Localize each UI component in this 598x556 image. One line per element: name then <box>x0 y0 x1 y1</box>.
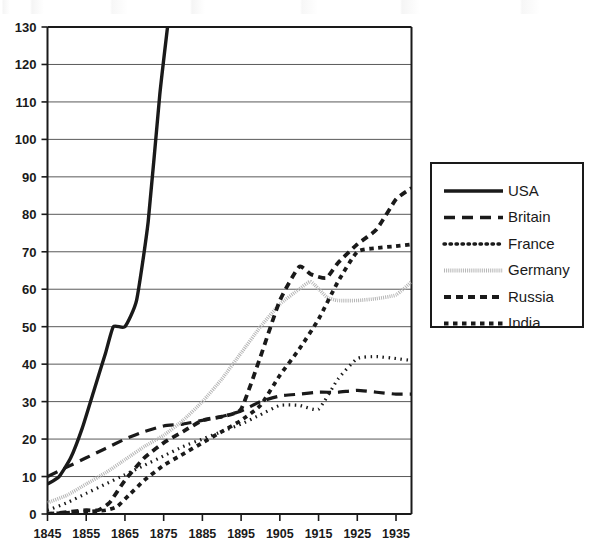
y-axis-label: 20 <box>22 432 36 447</box>
x-axis-label: 1875 <box>150 527 178 541</box>
x-axis-label: 1915 <box>305 527 333 541</box>
y-axis-label: 0 <box>29 507 36 522</box>
legend-label: Russia <box>508 288 555 305</box>
y-axis-label: 80 <box>22 207 36 222</box>
series-line-russia <box>48 188 412 514</box>
series-line-india <box>48 244 412 514</box>
line-chart: 0102030405060708090100110120130 18451855… <box>0 0 598 556</box>
legend-label: Britain <box>508 208 551 225</box>
y-axis-label: 50 <box>22 320 36 335</box>
legend-label: Germany <box>508 261 570 278</box>
x-axis-label: 1845 <box>34 527 62 541</box>
x-tick-marks-group <box>48 514 397 521</box>
chart-page: 0102030405060708090100110120130 18451855… <box>0 0 598 556</box>
legend: USABritainFranceGermanyRussiaIndia <box>431 163 583 331</box>
y-axis-label: 110 <box>16 95 37 110</box>
series-line-germany <box>48 282 412 503</box>
series-line-france <box>48 357 412 511</box>
y-axis-labels-group: 0102030405060708090100110120130 <box>15 20 37 522</box>
legend-label: India <box>508 314 541 331</box>
x-axis-label: 1885 <box>188 527 216 541</box>
series-line-usa <box>48 27 168 484</box>
y-axis-label: 90 <box>22 170 36 185</box>
x-axis-labels-group: 1845185518651875188518951905191519251935 <box>34 527 410 541</box>
data-series-group <box>48 27 412 514</box>
y-axis-label: 30 <box>22 395 36 410</box>
axis-lines-group <box>48 27 412 514</box>
y-axis-label: 130 <box>15 20 37 35</box>
legend-box <box>431 163 583 327</box>
y-axis-label: 100 <box>15 132 37 147</box>
x-axis-label: 1925 <box>343 527 371 541</box>
legend-label: USA <box>508 182 539 199</box>
y-axis-label: 60 <box>22 282 36 297</box>
x-axis-label: 1905 <box>266 527 294 541</box>
x-axis-label: 1865 <box>111 527 139 541</box>
y-axis-label: 120 <box>15 57 37 72</box>
legend-label: France <box>508 235 555 252</box>
x-axis-label: 1855 <box>72 527 100 541</box>
x-axis-label: 1895 <box>227 527 255 541</box>
y-axis-label: 70 <box>22 245 36 260</box>
series-line-britain <box>48 390 412 476</box>
y-axis-label: 10 <box>22 470 36 485</box>
y-axis-label: 40 <box>22 357 36 372</box>
x-axis-label: 1935 <box>382 527 410 541</box>
